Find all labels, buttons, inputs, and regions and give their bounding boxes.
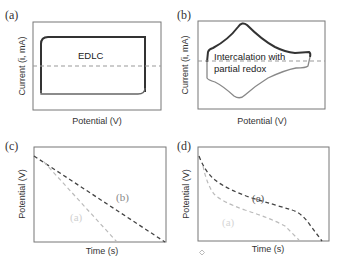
diamond-marker-icon	[200, 250, 205, 255]
panel-b-label: (b)	[177, 8, 191, 22]
panel-c-curve-a	[44, 162, 117, 242]
panel-a-annotation: EDLC	[78, 50, 103, 61]
panel-c-label: (c)	[5, 139, 18, 153]
panel-b-annotation-line1: Intercalation with	[214, 51, 285, 62]
panel-d-ylabel: Potential (V)	[181, 169, 191, 219]
panel-d-label: (d)	[177, 139, 191, 153]
panel-d-curve-a	[203, 166, 299, 240]
panel-a: (a) EDLC Current (i, mA) Potential (V)	[5, 8, 161, 126]
panel-c-ylabel: Potential (V)	[17, 169, 27, 219]
panel-b: (b) Intercalation with partial redox Cur…	[177, 8, 325, 126]
panel-c-curve-a-label: (a)	[70, 211, 83, 224]
panel-d-curve-a-label: (a)	[222, 216, 235, 229]
panel-c: (c) (b) (a) Potential (V) Time (s)	[5, 139, 166, 256]
panel-a-cv-upper	[41, 37, 145, 93]
panel-a-ylabel: Current (i, mA)	[17, 36, 27, 95]
panel-a-label: (a)	[5, 8, 18, 22]
panel-a-xlabel: Potential (V)	[72, 116, 122, 126]
panel-c-frame	[34, 147, 166, 242]
panel-b-annotation-line2: partial redox	[214, 63, 267, 74]
panel-c-curve-b	[34, 156, 165, 242]
panel-b-xlabel: Potential (V)	[237, 116, 287, 126]
panel-d: (d) (e) (a) Potential (V) Time (s)	[177, 139, 329, 255]
panel-d-xlabel: Time (s)	[252, 244, 285, 254]
panel-c-curve-b-label: (b)	[116, 191, 129, 204]
panel-d-curve-e-label: (e)	[252, 192, 265, 205]
panel-c-xlabel: Time (s)	[86, 246, 119, 256]
figure: (a) EDLC Current (i, mA) Potential (V) (…	[0, 0, 345, 265]
panel-b-ylabel: Current (i, mA)	[180, 35, 190, 94]
panel-a-cv-lower	[41, 88, 145, 94]
